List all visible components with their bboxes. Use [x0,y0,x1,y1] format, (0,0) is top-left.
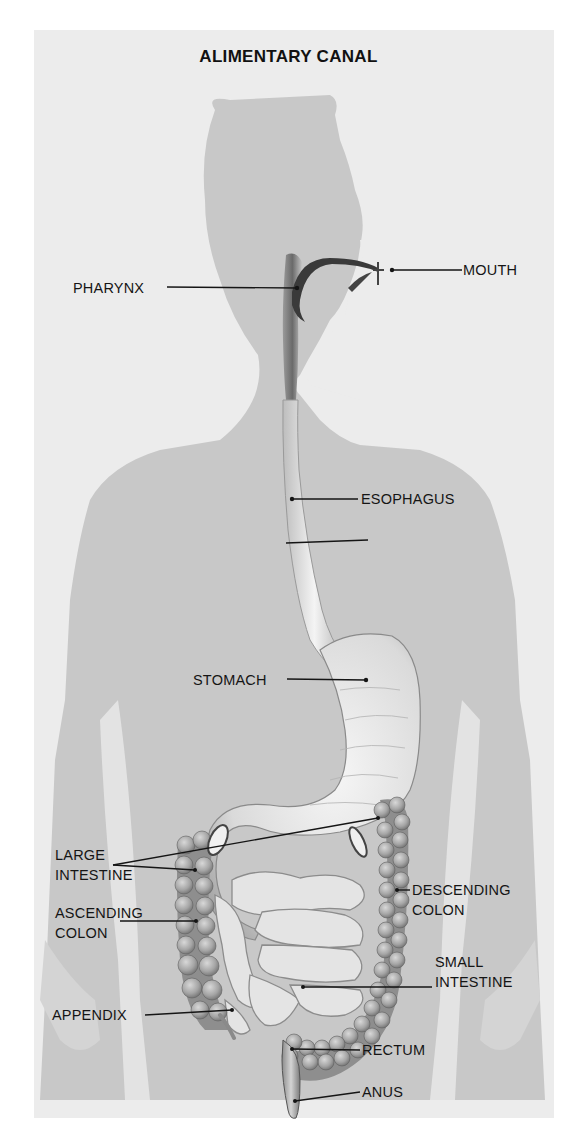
label-anus: ANUS [362,1082,403,1102]
label-esophagus: ESOPHAGUS [361,489,455,509]
label-large-intestine: LARGE INTESTINE [55,845,133,885]
label-pharynx: PHARYNX [73,278,144,298]
label-stomach: STOMACH [193,670,267,690]
label-ascending-colon: ASCENDING COLON [55,903,143,943]
diagram-title: ALIMENTARY CANAL [0,47,577,67]
label-appendix: APPENDIX [52,1005,127,1025]
label-descending-colon: DESCENDING COLON [412,880,511,920]
label-rectum: RECTUM [362,1040,425,1060]
label-small-intestine: SMALL INTESTINE [435,952,513,992]
label-mouth: MOUTH [463,260,517,280]
